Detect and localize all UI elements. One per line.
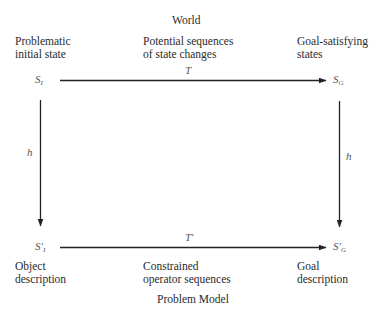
object-description-label-line2: description <box>15 273 66 286</box>
goal-description-label-line2: description <box>297 273 348 286</box>
constrained-operator-sequences-label-line2: operator sequences <box>143 273 231 286</box>
problem-model-title: Problem Model <box>157 293 229 306</box>
goal-description-label-line1: Goal <box>297 260 319 273</box>
constrained-operator-sequences-label-line1: Constrained <box>143 260 199 273</box>
object-description-label-line1: Object <box>15 260 46 273</box>
